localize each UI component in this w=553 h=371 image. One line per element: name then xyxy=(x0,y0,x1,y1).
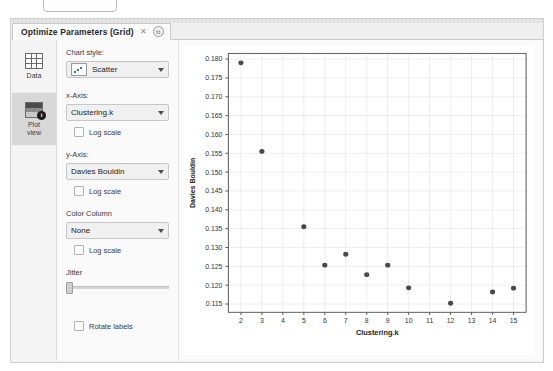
close-icon[interactable]: ✕ xyxy=(140,28,147,36)
y-tick-label: 0.125 xyxy=(205,263,223,270)
color-column-select[interactable]: None xyxy=(66,222,169,239)
jitter-slider-track[interactable] xyxy=(66,286,169,289)
x-tick-label: 8 xyxy=(365,318,369,325)
x-tick-label: 10 xyxy=(405,318,413,325)
tab-bar: Optimize Parameters (Grid) ✕ ⧉ xyxy=(11,23,543,40)
color-log-scale-checkbox[interactable] xyxy=(74,245,84,255)
x-log-scale-row[interactable]: Log scale xyxy=(74,127,169,137)
scatter-chart-icon xyxy=(71,63,87,76)
plot-area: 0.1150.1200.1250.1300.1350.1400.1450.150… xyxy=(179,40,542,361)
y-tick-label: 0.160 xyxy=(205,131,223,138)
data-point[interactable] xyxy=(406,285,411,290)
y-tick-label: 0.180 xyxy=(205,56,223,63)
panel-body: Data i Plot view Chart style: Sc xyxy=(12,40,542,361)
x-tick-label: 7 xyxy=(344,318,348,325)
chart-style-value: Scatter xyxy=(92,65,117,74)
x-axis-select[interactable]: Clustering.k xyxy=(66,104,169,121)
color-column-label: Color Column xyxy=(66,209,169,218)
x-tick-label: 13 xyxy=(468,318,476,325)
y-log-scale-label: Log scale xyxy=(89,187,121,196)
plot-card: 0.1150.1200.1250.1300.1350.1400.1450.150… xyxy=(183,46,534,355)
data-point[interactable] xyxy=(301,224,306,229)
x-axis-value: Clustering.k xyxy=(71,108,113,117)
color-log-scale-row[interactable]: Log scale xyxy=(74,245,169,255)
tab-optimize-parameters-grid[interactable]: Optimize Parameters (Grid) ✕ ⧉ xyxy=(12,23,171,40)
x-tick-label: 9 xyxy=(386,318,390,325)
x-tick-label: 3 xyxy=(260,318,264,325)
optimize-parameters-window: Optimize Parameters (Grid) ✕ ⧉ Data i Pl… xyxy=(10,18,544,363)
rotate-labels-row[interactable]: Rotate labels xyxy=(74,321,169,331)
y-tick-label: 0.150 xyxy=(205,169,223,176)
chevron-down-icon xyxy=(158,111,164,115)
y-tick-label: 0.140 xyxy=(205,206,223,213)
sidebar-item-plot-view-label: Plot view xyxy=(27,121,41,137)
chevron-down-icon xyxy=(158,170,164,174)
chevron-down-icon xyxy=(158,229,164,233)
scatter-plot[interactable]: 0.1150.1200.1250.1300.1350.1400.1450.150… xyxy=(183,46,534,355)
x-axis-title: Clustering.k xyxy=(356,330,399,338)
chart-style-label: Chart style: xyxy=(66,48,169,57)
x-tick-label: 14 xyxy=(489,318,497,325)
chart-style-select[interactable]: Scatter xyxy=(66,61,169,78)
y-log-scale-row[interactable]: Log scale xyxy=(74,186,169,196)
y-tick-label: 0.170 xyxy=(205,93,223,100)
plot-icon: i xyxy=(25,102,43,118)
data-point[interactable] xyxy=(385,263,390,268)
y-tick-label: 0.165 xyxy=(205,112,223,119)
info-badge: i xyxy=(37,111,46,120)
sidebar-plot-line2: view xyxy=(27,129,41,136)
x-log-scale-label: Log scale xyxy=(89,128,121,137)
x-tick-label: 15 xyxy=(510,318,518,325)
x-tick-label: 11 xyxy=(426,318,433,325)
x-log-scale-checkbox[interactable] xyxy=(74,127,84,137)
plot-controls: Chart style: Scatter x-Axis: Clustering.… xyxy=(57,40,179,361)
y-axis-select[interactable]: Davies Bouldin xyxy=(66,163,169,180)
sidebar-item-plot-view[interactable]: i Plot view xyxy=(12,93,56,146)
screen: Optimize Parameters (Grid) ✕ ⧉ Data i Pl… xyxy=(0,0,553,371)
background-widget-fragment xyxy=(43,0,117,12)
data-point[interactable] xyxy=(259,149,264,154)
detach-icon[interactable]: ⧉ xyxy=(153,26,164,37)
x-tick-label: 6 xyxy=(323,318,327,325)
rotate-labels-checkbox[interactable] xyxy=(74,321,84,331)
y-tick-label: 0.130 xyxy=(205,244,223,251)
y-log-scale-checkbox[interactable] xyxy=(74,186,84,196)
chevron-down-icon xyxy=(158,68,164,72)
data-point[interactable] xyxy=(343,252,348,257)
data-point[interactable] xyxy=(364,272,369,277)
jitter-label: Jitter xyxy=(66,268,169,277)
y-tick-label: 0.145 xyxy=(205,188,223,195)
y-axis-value: Davies Bouldin xyxy=(71,167,124,176)
data-point[interactable] xyxy=(511,286,516,291)
data-point[interactable] xyxy=(448,301,453,306)
color-column-value: None xyxy=(71,226,90,235)
x-tick-label: 2 xyxy=(239,318,243,325)
x-tick-label: 5 xyxy=(302,318,306,325)
data-point[interactable] xyxy=(490,290,495,295)
data-point[interactable] xyxy=(322,263,327,268)
y-tick-label: 0.155 xyxy=(205,150,223,157)
jitter-slider-thumb[interactable] xyxy=(66,282,73,294)
y-tick-label: 0.115 xyxy=(206,301,223,308)
table-icon xyxy=(25,53,43,69)
y-tick-label: 0.175 xyxy=(205,75,223,82)
view-sidebar: Data i Plot view xyxy=(12,40,57,361)
y-tick-label: 0.135 xyxy=(205,225,223,232)
plot-frame xyxy=(228,53,526,312)
y-tick-label: 0.120 xyxy=(205,282,223,289)
y-axis-label: y-Axis: xyxy=(66,150,169,159)
x-axis-label: x-Axis: xyxy=(66,91,169,100)
rotate-labels-label: Rotate labels xyxy=(89,322,133,331)
sidebar-item-data[interactable]: Data xyxy=(12,40,56,93)
jitter-slider[interactable] xyxy=(66,281,169,293)
tab-label: Optimize Parameters (Grid) xyxy=(21,27,134,37)
sidebar-item-data-label: Data xyxy=(27,72,42,80)
x-tick-label: 4 xyxy=(281,318,285,325)
sidebar-plot-line1: Plot xyxy=(28,121,40,128)
x-tick-label: 12 xyxy=(447,318,455,325)
color-log-scale-label: Log scale xyxy=(89,246,121,255)
data-point[interactable] xyxy=(238,60,243,65)
y-axis-title: Davies Bouldin xyxy=(189,158,197,208)
